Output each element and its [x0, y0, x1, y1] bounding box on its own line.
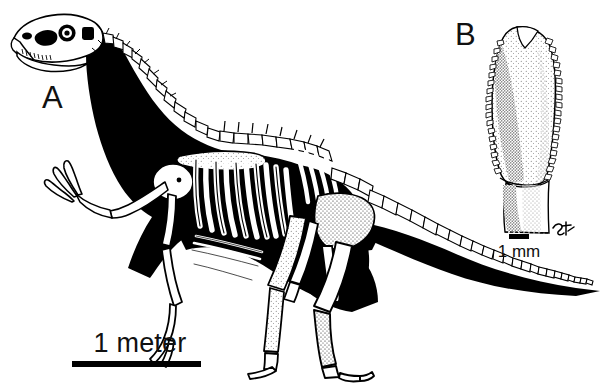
scale-bar-mm: 1 mm	[496, 234, 542, 262]
scale-bar-mm-rule	[509, 234, 529, 239]
scale-bar-mm-label: 1 mm	[496, 242, 542, 262]
panel-label-a: A	[42, 82, 63, 113]
eye-pupil	[64, 30, 69, 35]
external-naris	[22, 33, 32, 40]
scapula	[177, 151, 266, 170]
infratemporal-fenestra	[82, 27, 94, 40]
scale-bar-meter: 1 meter	[66, 328, 206, 367]
glenoid-foramen	[177, 178, 182, 183]
panel-label-b: B	[455, 19, 476, 50]
scale-bar-meter-label: 1 meter	[74, 328, 206, 359]
scale-bar-meter-rule	[72, 361, 201, 367]
figure-canvas	[0, 0, 607, 384]
metatarsus-near	[322, 366, 339, 378]
